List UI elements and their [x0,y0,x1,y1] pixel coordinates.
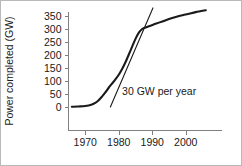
x-tick-label: 2000 [174,136,198,148]
y-tick-label: 100 [44,75,62,87]
y-tick-label: 200 [44,49,62,61]
y-tick-label: 250 [44,36,62,48]
slope-annotation-label: 30 GW per year [122,85,197,97]
x-tick-label: 1990 [141,136,165,148]
x-tick-label: 1980 [107,136,131,148]
y-tick-label: 150 [44,62,62,74]
x-axis-ticks: 1970198019902000 [74,131,198,149]
y-axis-title: Power completed (GW) [3,16,15,125]
chart-canvas: 050100150200250300350 1970198019902000 P… [0,0,242,166]
y-tick-label: 350 [44,10,62,22]
chart-figure: 050100150200250300350 1970198019902000 P… [0,0,242,166]
y-axis-ticks: 050100150200250300350 [44,10,69,113]
y-tick-label: 300 [44,23,62,35]
y-tick-label: 0 [56,101,62,113]
y-tick-label: 50 [50,88,62,100]
x-tick-label: 1970 [74,136,98,148]
